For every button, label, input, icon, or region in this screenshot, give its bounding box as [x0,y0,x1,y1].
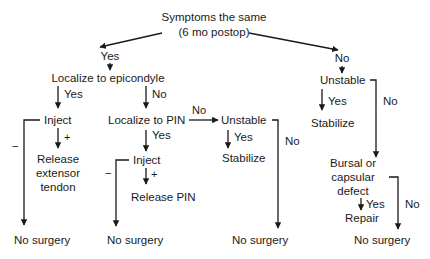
edge-label-bursal-yes: Yes [366,198,385,210]
node-bursal-line1: Bursal or [330,157,376,169]
edge-label-inject1-minus: − [12,140,19,152]
edge-label-inject2-plus: + [151,168,157,180]
edge-label-epicondyle-yes: Yes [64,88,83,100]
edge-label-unstable-mid-no: No [285,135,300,147]
node-release-extensor-line2: extensor [36,167,80,179]
edge-label-epicondyle-no: No [152,88,167,100]
node-no-surgery-3: No surgery [232,234,288,246]
edge-inject2-minus [116,160,129,226]
edge-label-unstable-mid-yes: Yes [234,131,253,143]
edge-label-inject1-plus: + [64,131,70,143]
node-no-surgery-2: No surgery [107,234,163,246]
edge-label-bursal-no: No [405,198,420,210]
node-root-line2: (6 mo postop) [179,26,250,38]
edge-label-inject2-minus: − [105,167,112,179]
node-bursal-line3: defect [337,185,369,197]
node-repair: Repair [345,212,379,224]
edge-label-pin-yes: Yes [152,129,171,141]
edge-label-unstable-right-yes: Yes [328,95,347,107]
node-yes-top: Yes [101,50,120,62]
edge-label-pin-no: No [192,104,206,116]
node-inject-2: Inject [133,154,161,166]
node-release-pin: Release PIN [131,191,196,203]
node-stabilize-right: Stabilize [311,117,354,129]
node-root-line1: Symptoms the same [162,11,267,23]
edge-label-unstable-right-no: No [383,95,398,107]
edge-unstable-right-no [370,80,376,157]
node-unstable-mid: Unstable [221,114,266,126]
edge-root-yes [100,33,162,47]
node-release-extensor-line1: Release [37,153,79,165]
edge-bursal-no [389,177,398,229]
node-stabilize-mid: Stabilize [222,152,265,164]
edge-unstable-mid-no [272,120,278,228]
node-release-extensor-line3: tendon [40,181,75,193]
node-unstable-right: Unstable [320,74,365,86]
node-no-surgery-4: No surgery [354,234,410,246]
node-inject-1: Inject [44,114,72,126]
node-no-top: No [335,52,350,64]
node-localize-pin: Localize to PIN [108,114,185,126]
node-no-surgery-1: No surgery [14,234,70,246]
flowchart: Symptoms the same (6 mo postop) Yes No L… [0,0,430,259]
node-bursal-line2: capsular [331,171,375,183]
edge-root-no [249,33,338,50]
node-localize-epicondyle: Localize to epicondyle [51,72,164,84]
